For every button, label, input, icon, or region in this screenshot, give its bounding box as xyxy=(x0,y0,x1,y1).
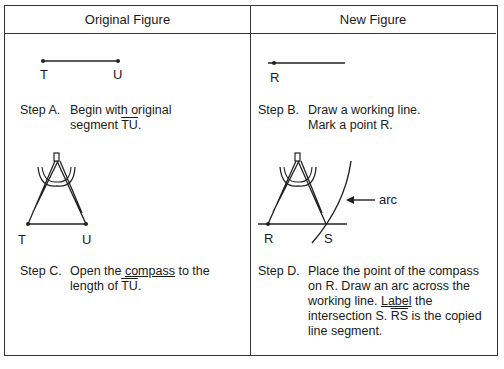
point-r-dot xyxy=(272,61,276,65)
step-a-label: Step A. xyxy=(20,103,60,118)
step-c-label: Step C. xyxy=(20,264,62,279)
step-b-line1: Draw a working line. xyxy=(308,103,421,117)
step-b-label: Step B. xyxy=(258,103,299,118)
arc-pointer-arrowhead xyxy=(346,196,354,204)
compass-point-s-label: S xyxy=(324,231,333,246)
compass-point-r-label: R xyxy=(264,231,273,246)
segment-rs-notation: RS xyxy=(391,309,408,323)
compass-point-u-label: U xyxy=(82,232,91,247)
compass-right-leg xyxy=(57,161,86,224)
step-d-label: Step D. xyxy=(258,264,300,279)
compass-tu-figure: T U xyxy=(18,153,91,247)
compass-point-t-label: T xyxy=(18,232,26,247)
step-b-line2: Mark a point R. xyxy=(308,118,393,132)
point-u-dot xyxy=(116,59,120,63)
arc-label: arc xyxy=(379,192,398,207)
point-u-label: U xyxy=(113,67,122,82)
compass-rs-figure: arc R S xyxy=(258,153,398,246)
step-a-line1: Begin with original xyxy=(70,103,171,117)
segment-tu-notation-2: TU xyxy=(121,279,138,293)
point-t-dot xyxy=(41,59,45,63)
compass-handle xyxy=(54,153,59,161)
compass-rs-handle xyxy=(295,153,300,161)
point-r-label: R xyxy=(270,70,279,85)
point-t-label: T xyxy=(40,67,48,82)
compass-hinge-arc xyxy=(38,167,75,186)
segment-tu-notation: TU xyxy=(121,118,138,132)
compass-rs-left-leg xyxy=(268,161,299,224)
